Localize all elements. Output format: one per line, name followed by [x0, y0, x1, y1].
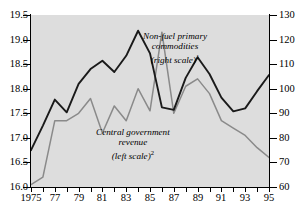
right-axis-tick-label: 60	[279, 182, 290, 193]
annotation-central-government-revenue: Central government revenue (left scale)2	[96, 127, 170, 161]
right-axis-tick-label: 120	[279, 35, 295, 46]
x-axis-tick-label: 89	[193, 193, 204, 204]
x-axis-tick-label: 95	[264, 193, 275, 204]
x-axis-tick-label: 93	[240, 193, 251, 204]
left-axis-tick-label: 19.5	[10, 10, 28, 21]
right-axis-tick	[270, 162, 277, 163]
x-axis-tick	[91, 188, 92, 192]
right-axis-tick	[270, 113, 277, 114]
x-axis-tick	[114, 188, 115, 192]
annotation-line-2: revenue	[96, 137, 170, 147]
left-axis-tick-label: 18.0	[10, 84, 28, 95]
left-axis-tick-label: 18.5	[10, 59, 28, 70]
right-axis-tick	[270, 15, 277, 16]
left-axis-tick-label: 16.0	[10, 182, 28, 193]
plot-area: Non-fuel primary commodities (right scal…	[31, 15, 269, 187]
x-axis-tick-label: 77	[50, 193, 61, 204]
x-axis-tick	[162, 188, 163, 192]
x-axis-tick	[138, 188, 139, 192]
x-axis-tick	[257, 188, 258, 192]
right-axis-tick	[270, 64, 277, 65]
right-axis-tick-label: 70	[279, 157, 290, 168]
left-axis-tick-label: 16.5	[10, 157, 28, 168]
right-axis-tick-label: 130	[279, 10, 295, 21]
x-axis-tick-label: 83	[121, 193, 132, 204]
x-axis-tick-label: 81	[97, 193, 108, 204]
right-axis-tick-label: 100	[279, 84, 295, 95]
chart-figure: Non-fuel primary commodities (right scal…	[0, 0, 306, 211]
right-axis-tick-label: 80	[279, 133, 290, 144]
left-axis-line	[30, 14, 31, 188]
right-axis-tick	[270, 138, 277, 139]
left-axis-tick-label: 19.0	[10, 35, 28, 46]
annotation-line-3-text: (right scale)	[151, 55, 196, 65]
annotation-line-3-text: (left scale)	[112, 151, 151, 161]
annotation-line-2: commodities	[143, 41, 207, 51]
x-axis-tick-label: 87	[169, 193, 180, 204]
annotation-footnote-marker: 1	[196, 53, 199, 60]
x-axis-tick-label: 91	[216, 193, 227, 204]
x-axis-tick	[43, 188, 44, 192]
x-axis-tick	[233, 188, 234, 192]
annotation-line-1: Central government	[96, 127, 170, 137]
x-axis-tick	[186, 188, 187, 192]
x-axis-tick-label: 1975	[21, 193, 42, 204]
right-axis-tick-label: 90	[279, 108, 290, 119]
x-axis-tick-label: 85	[145, 193, 156, 204]
x-axis-tick-label: 79	[74, 193, 85, 204]
right-axis-tick	[270, 89, 277, 90]
right-axis-tick	[270, 187, 277, 188]
x-axis-tick	[210, 188, 211, 192]
left-axis-tick-label: 17.0	[10, 133, 28, 144]
annotation-line-1: Non-fuel primary	[143, 31, 207, 41]
right-axis-tick-label: 110	[279, 59, 294, 70]
annotation-line-3: (right scale)1	[143, 52, 207, 65]
right-axis-tick	[270, 40, 277, 41]
annotation-non-fuel-primary-commodities: Non-fuel primary commodities (right scal…	[143, 31, 207, 65]
annotation-footnote-marker: 2	[151, 149, 154, 156]
x-axis-tick	[67, 188, 68, 192]
left-axis-tick-label: 17.5	[10, 108, 28, 119]
annotation-line-3: (left scale)2	[96, 148, 170, 161]
